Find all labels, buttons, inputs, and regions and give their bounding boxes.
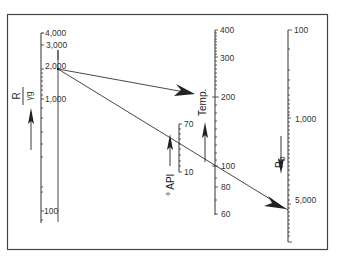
r-gamma-scale: 4,000 3,000 2,000 1,000 100: [41, 28, 68, 223]
tick-label-3000: 3,000: [46, 40, 68, 50]
svg-text:γg: γg: [24, 91, 34, 100]
tick-label-400: 400: [220, 25, 234, 35]
r-to-temp-arrowhead-icon: [174, 84, 195, 96]
tick-label-80: 80: [221, 182, 231, 192]
nomograph-diagram: 4,000 3,000 2,000 1,000 100 R γg: [0, 0, 338, 256]
temp-direction-arrow-icon: [202, 122, 208, 162]
tick-label-100: 100: [221, 161, 235, 171]
tick-label-1000: 1,000: [295, 114, 317, 124]
pb-scale: 100 1,000 5,000: [288, 25, 317, 242]
r-gamma-title: R γg: [11, 87, 34, 105]
tick-label-4000: 4,000: [45, 28, 67, 38]
temp-title: Temp.: [197, 89, 208, 116]
tick-label-1000: 1,000: [45, 94, 67, 104]
r-direction-arrow-icon: [28, 108, 34, 150]
temp-scale: 400 300 200 100 80 60: [212, 25, 235, 219]
tick-label-100: 100: [294, 25, 308, 35]
tick-label-200: 200: [221, 92, 235, 102]
tick-label-60: 60: [221, 209, 231, 219]
tick-label-5000: 5,000: [295, 195, 317, 205]
r-to-pb-arrowhead-icon: [264, 196, 286, 209]
svg-text:R: R: [11, 92, 22, 99]
tick-label-2000: 2,000: [45, 61, 67, 71]
api-title: ° API: [165, 174, 176, 196]
tick-label-10: 10: [184, 167, 194, 177]
tick-label-300: 300: [220, 53, 234, 63]
tick-label-70: 70: [184, 119, 194, 129]
tick-label-100: 100: [44, 206, 58, 216]
